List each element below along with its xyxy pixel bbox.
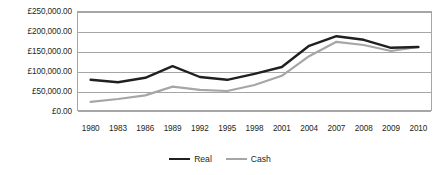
gridline [78, 111, 431, 112]
x-tick-label: 2010 [403, 124, 433, 134]
series-line-real [91, 36, 419, 82]
x-tick-label: 1995 [212, 124, 242, 134]
legend-item-real[interactable]: Real [169, 154, 212, 164]
x-tick-label: 1986 [130, 124, 160, 134]
x-axis: 1980198319861989199219951998200120042007… [77, 124, 432, 138]
legend-swatch-real-icon [169, 158, 190, 161]
y-tick-label: £250,000.00 [0, 7, 72, 16]
y-axis: £250,000.00£200,000.00£150,000.00£100,00… [0, 0, 72, 120]
x-tick-label: 1992 [185, 124, 215, 134]
legend-label: Cash [251, 154, 271, 164]
legend-swatch-cash-icon [226, 158, 247, 161]
x-tick-label: 2009 [376, 124, 406, 134]
series-line-cash [91, 42, 419, 102]
x-tick-label: 2004 [294, 124, 324, 134]
x-tick-label: 1980 [76, 124, 106, 134]
y-tick-label: £0.00 [0, 107, 72, 116]
series-layer [77, 11, 432, 111]
x-tick-label: 2001 [267, 124, 297, 134]
x-tick-label: 2008 [349, 124, 379, 134]
y-tick-label: £150,000.00 [0, 47, 72, 56]
x-tick-label: 1998 [240, 124, 270, 134]
legend-label: Real [194, 154, 212, 164]
x-tick-label: 1983 [103, 124, 133, 134]
legend-item-cash[interactable]: Cash [226, 154, 271, 164]
y-tick-label: £200,000.00 [0, 27, 72, 36]
line-chart: £250,000.00£200,000.00£150,000.00£100,00… [0, 0, 440, 175]
x-tick-label: 1989 [158, 124, 188, 134]
y-tick-label: £100,000.00 [0, 67, 72, 76]
y-tick-label: £50,000.00 [0, 87, 72, 96]
x-tick-label: 2007 [321, 124, 351, 134]
chart-legend: RealCash [0, 152, 440, 166]
